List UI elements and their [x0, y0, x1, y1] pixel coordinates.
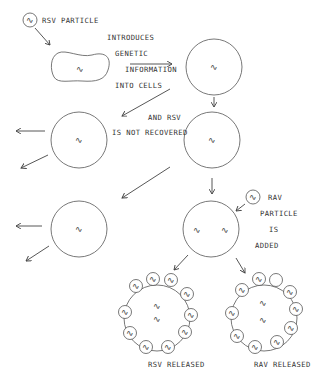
svg-text:∿: ∿ — [183, 289, 191, 299]
rav-released-cell: ∿ ∿ ∿ ∿ ∿ ∿ ∿ ∿ ∿ ∿ ∿ — [226, 273, 303, 354]
rav-particle: ∿ — [246, 190, 260, 204]
svg-text:∿: ∿ — [273, 337, 281, 347]
svg-text:∿: ∿ — [208, 135, 216, 145]
rsv-released-label: RSV RELEASED — [148, 360, 205, 369]
svg-text:∿: ∿ — [181, 327, 189, 337]
svg-text:∿: ∿ — [76, 64, 84, 74]
genetic-label: GENETIC — [115, 49, 148, 58]
arrow-left-1b — [21, 155, 48, 168]
svg-text:∿: ∿ — [26, 15, 34, 25]
initial-cell: ∿ — [51, 52, 109, 81]
svg-text:∿: ∿ — [126, 328, 134, 338]
particle-label: PARTICLE — [260, 209, 298, 218]
svg-text:∿: ∿ — [255, 274, 263, 284]
rsv-particle-label: RSV PARTICLE — [42, 16, 99, 25]
svg-text:∿: ∿ — [153, 314, 161, 324]
arrow-diagonal-1 — [122, 89, 170, 116]
into-cells-label: INTO CELLS — [115, 81, 162, 90]
arrow-to-rav-release — [236, 258, 245, 273]
arrow-to-rsv-release — [174, 255, 188, 270]
not-recovered-label: IS NOT RECOVERED — [112, 128, 188, 137]
svg-text:∿: ∿ — [286, 287, 294, 297]
rav-released-label: RAV RELEASED — [254, 360, 311, 369]
svg-text:∿: ∿ — [259, 298, 267, 308]
svg-text:∿: ∿ — [187, 310, 195, 320]
svg-text:∿: ∿ — [153, 301, 161, 311]
svg-text:∿: ∿ — [238, 285, 246, 295]
svg-text:∿: ∿ — [292, 304, 300, 314]
information-label: INFORMATION — [125, 65, 177, 74]
dividing-cell-2: ∿ — [51, 201, 107, 257]
svg-text:∿: ∿ — [287, 323, 295, 333]
added-label: ADDED — [255, 241, 279, 250]
svg-text:∿: ∿ — [233, 331, 241, 341]
svg-text:∿: ∿ — [164, 342, 172, 352]
infected-cell-1: ∿ — [186, 39, 242, 95]
svg-text:∿: ∿ — [132, 281, 140, 291]
coinfected-cell: ∿ ∿ — [183, 201, 239, 257]
svg-text:∿: ∿ — [121, 307, 129, 317]
svg-text:∿: ∿ — [142, 342, 150, 352]
arrow-particle-to-cell — [35, 28, 50, 45]
svg-text:∿: ∿ — [193, 225, 201, 235]
svg-text:∿: ∿ — [167, 275, 175, 285]
arrow-diagonal-2 — [122, 167, 170, 198]
introduces-label: INTRODUCES — [107, 33, 154, 42]
svg-text:∿: ∿ — [210, 62, 218, 72]
svg-text:∿: ∿ — [75, 135, 83, 145]
svg-text:∿: ∿ — [249, 192, 257, 202]
rsv-rav-diagram: ∿ RSV PARTICLE ∿ INTRODUCES GENETIC INFO… — [0, 0, 322, 383]
svg-text:∿: ∿ — [251, 342, 259, 352]
svg-text:∿: ∿ — [149, 274, 157, 284]
arrow-left-2b — [26, 246, 49, 261]
svg-text:∿: ∿ — [75, 224, 83, 234]
rav-label: RAV — [268, 193, 282, 202]
is-label: IS — [269, 225, 278, 234]
svg-text:∿: ∿ — [228, 308, 236, 318]
infected-cell-2: ∿ — [184, 112, 240, 168]
rsv-released-cell: ∿ ∿ ∿ ∿ ∿ ∿ ∿ ∿ ∿ ∿ ∿ ∿ — [119, 273, 198, 354]
svg-text:∿: ∿ — [221, 225, 229, 235]
svg-text:∿: ∿ — [259, 315, 267, 325]
rsv-particle: ∿ — [23, 13, 37, 27]
dividing-cell-1: ∿ — [51, 112, 107, 168]
arrow-rav-to-cell — [236, 204, 245, 211]
and-rsv-label: AND RSV — [148, 113, 181, 122]
